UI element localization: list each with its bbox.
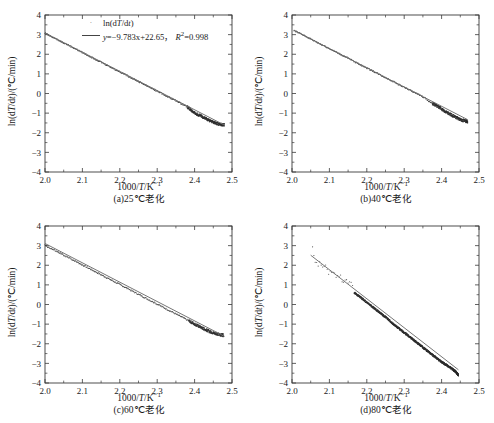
svg-text:−3: −3 [31, 359, 41, 369]
y-axis-label-a: ln(dT/dt)/(℃/min) [6, 32, 17, 152]
svg-text:1: 1 [284, 69, 289, 79]
fit-line-icon [82, 35, 100, 36]
scatter-marker-icon: · [82, 18, 100, 29]
svg-text:3: 3 [284, 241, 289, 251]
svg-text:2: 2 [37, 260, 42, 270]
legend-row-fit-a: y=−9.783x+22.65， R2=0.998 [82, 29, 208, 42]
legend-a: · ln(dT/dt) y=−9.783x+22.65， R2=0.998 [82, 18, 208, 42]
svg-text:1: 1 [37, 69, 42, 79]
svg-text:−4: −4 [278, 167, 288, 177]
svg-text:0: 0 [37, 89, 42, 99]
svg-text:0: 0 [37, 300, 42, 310]
svg-text:1: 1 [37, 280, 42, 290]
svg-text:−1: −1 [31, 108, 41, 118]
panel-caption-b: (b)40℃老化 [292, 191, 480, 205]
svg-text:4: 4 [37, 221, 42, 231]
svg-text:−1: −1 [278, 319, 288, 329]
panel-d: 2.02.12.22.32.42.543210−1−2−3−4 ln(dT/dt… [247, 211, 494, 422]
svg-text:1: 1 [284, 280, 289, 290]
panel-caption-a: (a)25℃老化 [45, 191, 233, 205]
y-axis-label-b: ln(dT/dt)/(℃/min) [253, 32, 264, 152]
svg-text:−3: −3 [31, 148, 41, 158]
svg-text:3: 3 [37, 30, 42, 40]
panel-caption-c: (c)60℃老化 [45, 402, 233, 416]
y-axis-label-d: ln(dT/dt)/(℃/min) [253, 243, 264, 363]
svg-text:3: 3 [37, 241, 42, 251]
legend-series-label-a: ln(dT/dt) [103, 18, 134, 29]
svg-text:−3: −3 [278, 148, 288, 158]
svg-text:0: 0 [284, 89, 289, 99]
svg-text:2: 2 [37, 49, 42, 59]
svg-text:2: 2 [284, 49, 289, 59]
svg-text:3: 3 [284, 30, 289, 40]
legend-row-series-a: · ln(dT/dt) [82, 18, 208, 29]
svg-text:0: 0 [284, 300, 289, 310]
svg-text:−1: −1 [278, 108, 288, 118]
svg-text:−2: −2 [31, 339, 41, 349]
svg-text:4: 4 [37, 10, 42, 20]
panel-a: 2.02.12.22.32.42.543210−1−2−3−4 ln(dT/dt… [0, 0, 247, 211]
svg-text:2: 2 [284, 260, 289, 270]
legend-fit-equation-a: y=−9.783x+22.65， R2=0.998 [103, 29, 208, 42]
panel-c: 2.02.12.22.32.42.543210−1−2−3−4 ln(dT/dt… [0, 211, 247, 422]
svg-text:−4: −4 [31, 167, 41, 177]
svg-text:−3: −3 [278, 359, 288, 369]
svg-text:−1: −1 [31, 319, 41, 329]
svg-text:−2: −2 [278, 339, 288, 349]
svg-text:4: 4 [284, 10, 289, 20]
panel-b: 2.02.12.22.32.42.543210−1−2−3−4 ln(dT/dt… [247, 0, 494, 211]
svg-text:−2: −2 [31, 128, 41, 138]
panel-caption-d: (d)80℃老化 [292, 402, 480, 416]
svg-text:−4: −4 [31, 378, 41, 388]
figure-container: 2.02.12.22.32.42.543210−1−2−3−4 ln(dT/dt… [0, 0, 494, 423]
svg-text:4: 4 [284, 221, 289, 231]
svg-text:−4: −4 [278, 378, 288, 388]
y-axis-label-c: ln(dT/dt)/(℃/min) [6, 243, 17, 363]
svg-text:−2: −2 [278, 128, 288, 138]
